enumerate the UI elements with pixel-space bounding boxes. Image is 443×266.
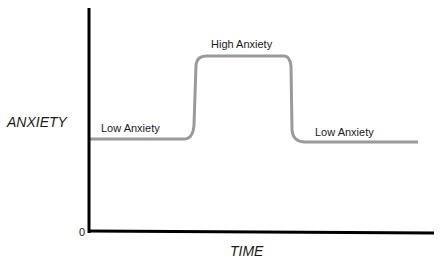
low-anxiety-start-label: Low Anxiety xyxy=(101,122,160,134)
origin-label: 0 xyxy=(79,226,85,238)
x-axis-label: TIME xyxy=(230,243,263,259)
y-axis-label: ANXIETY xyxy=(7,114,67,130)
high-anxiety-label: High Anxiety xyxy=(211,38,272,50)
low-anxiety-end-label: Low Anxiety xyxy=(315,126,374,138)
x-axis xyxy=(88,231,434,233)
